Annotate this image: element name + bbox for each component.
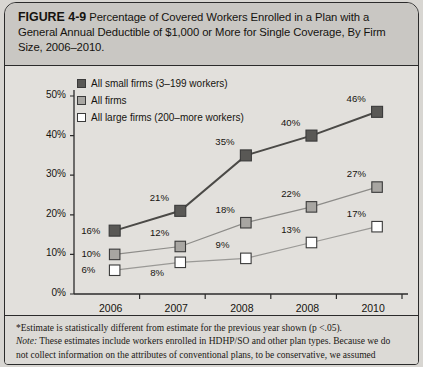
footnote-note-text: These estimates include workers enrolled… bbox=[37, 336, 390, 346]
footnotes-block: *Estimate is statistically different fro… bbox=[5, 315, 418, 365]
data-point-label: 8% bbox=[150, 267, 164, 278]
data-point-label: 35% bbox=[215, 136, 234, 147]
legend-swatch-icon bbox=[77, 96, 86, 105]
data-point-label: 18% bbox=[216, 204, 235, 215]
y-axis-tick-label: 20% bbox=[32, 208, 66, 219]
x-axis-tick-label: 2006 bbox=[89, 302, 133, 314]
legend-label: All large firms (200–more workers) bbox=[91, 112, 244, 123]
data-point-label: 46% bbox=[347, 93, 366, 104]
data-point-label: 13% bbox=[281, 224, 300, 235]
footnote-note: Note: These estimates include workers en… bbox=[16, 335, 408, 348]
data-point-label: 6% bbox=[81, 264, 95, 275]
page-title: FIGURE 4-9 Percentage of Covered Workers… bbox=[18, 10, 406, 56]
data-point-label: 40% bbox=[281, 117, 300, 128]
figure-header: FIGURE 4-9 Percentage of Covered Workers… bbox=[5, 3, 418, 66]
data-point-label: 17% bbox=[347, 208, 366, 219]
data-point-label: 27% bbox=[347, 168, 366, 179]
chart-legend: All small firms (3–199 workers)All firms… bbox=[77, 75, 244, 126]
legend-item-1[interactable]: All firms bbox=[77, 92, 244, 109]
footnote-note-continued: not collect information on the attribute… bbox=[16, 349, 408, 362]
x-axis-tick-label: 2008 bbox=[220, 302, 264, 314]
x-axis-tick-label: 2010 bbox=[351, 302, 395, 314]
data-point-label: 12% bbox=[150, 227, 169, 238]
data-point-label: 22% bbox=[281, 188, 300, 199]
y-axis-tick-label: 0% bbox=[32, 287, 66, 298]
data-point-label: 9% bbox=[216, 239, 230, 250]
legend-item-0[interactable]: All small firms (3–199 workers) bbox=[77, 75, 244, 92]
x-axis-tick-label: 2007 bbox=[154, 302, 198, 314]
legend-item-2[interactable]: All large firms (200–more workers) bbox=[77, 109, 244, 126]
y-axis-tick-label: 40% bbox=[32, 129, 66, 140]
chart-plot-area: All small firms (3–199 workers)All firms… bbox=[5, 66, 418, 315]
data-point-label: 10% bbox=[81, 248, 100, 259]
data-point-label: 21% bbox=[150, 192, 169, 203]
y-axis-tick-label: 50% bbox=[32, 89, 66, 100]
figure-card: FIGURE 4-9 Percentage of Covered Workers… bbox=[4, 2, 419, 365]
footnote-significance: *Estimate is statistically different fro… bbox=[16, 322, 408, 335]
legend-label: All firms bbox=[91, 95, 127, 106]
footnote-note-label: Note: bbox=[16, 336, 37, 346]
y-axis-tick-label: 30% bbox=[32, 168, 66, 179]
legend-swatch-icon bbox=[77, 113, 86, 122]
figure-number: FIGURE 4-9 bbox=[18, 10, 86, 24]
legend-swatch-icon bbox=[77, 79, 86, 88]
x-axis-tick-label: 2008 bbox=[285, 302, 329, 314]
data-point-label: 16% bbox=[81, 225, 100, 236]
y-axis-tick-label: 10% bbox=[32, 247, 66, 258]
legend-label: All small firms (3–199 workers) bbox=[91, 78, 228, 89]
